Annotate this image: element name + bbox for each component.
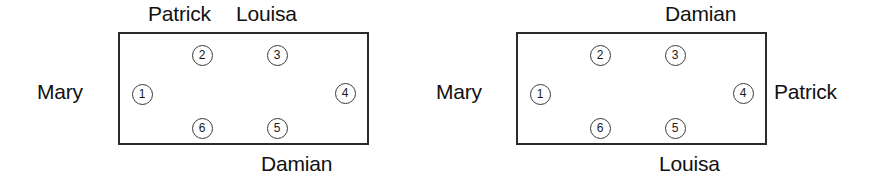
seat-circle-3-right: 3 bbox=[665, 45, 686, 66]
seat-circle-6-right: 6 bbox=[590, 118, 611, 139]
label-louisa-right: Louisa bbox=[659, 152, 720, 176]
seating-diagram-right: Mary Damian Patrick Louisa 1 2 3 4 5 6 bbox=[443, 0, 886, 190]
seat-circle-1-right: 1 bbox=[530, 84, 551, 105]
label-louisa-left: Louisa bbox=[236, 2, 297, 26]
table-outline-right bbox=[516, 32, 767, 145]
seat-circle-2-left: 2 bbox=[192, 45, 213, 66]
label-damian-right: Damian bbox=[665, 2, 736, 26]
seat-circle-5-right: 5 bbox=[665, 118, 686, 139]
label-mary-right: Mary bbox=[436, 80, 482, 104]
table-outline-left bbox=[118, 32, 369, 145]
seat-circle-4-left: 4 bbox=[335, 83, 356, 104]
seat-circle-4-right: 4 bbox=[733, 83, 754, 104]
label-patrick-right: Patrick bbox=[774, 80, 837, 104]
seat-circle-6-left: 6 bbox=[192, 118, 213, 139]
seat-circle-2-right: 2 bbox=[590, 45, 611, 66]
seat-circle-5-left: 5 bbox=[267, 118, 288, 139]
label-damian-left: Damian bbox=[261, 152, 332, 176]
label-mary-left: Mary bbox=[37, 80, 83, 104]
seating-diagram-left: Mary Patrick Louisa Damian 1 2 3 4 5 6 bbox=[0, 0, 443, 190]
seat-circle-3-left: 3 bbox=[267, 45, 288, 66]
figure-canvas: Mary Patrick Louisa Damian 1 2 3 4 5 6 M… bbox=[0, 0, 886, 190]
seat-circle-1-left: 1 bbox=[132, 84, 153, 105]
label-patrick-left: Patrick bbox=[148, 2, 211, 26]
